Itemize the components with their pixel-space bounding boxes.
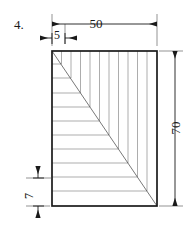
item-number-label: 4. [14,18,24,31]
dimension-width-label: 50 [90,17,103,30]
drawing-canvas: 4. 50 5 70 7 [0,0,195,228]
dimension-base-label: 7 [23,193,35,199]
dimension-line-base [33,166,44,218]
dimension-offset-label: 5 [54,29,60,41]
dimension-height-label: 70 [169,122,182,135]
diagonal-line [52,51,157,206]
